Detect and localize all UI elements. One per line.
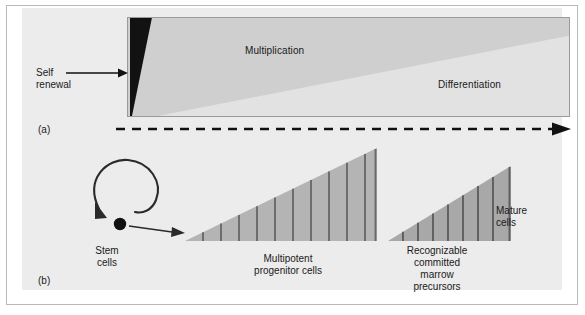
stem-to-progenitor-arrow [129,226,172,232]
label-multipotent-progenitor-cells: Multipotent progenitor cells [228,253,348,277]
self-renewal-loop-icon [94,160,158,213]
multipotent-line2: progenitor cells [228,265,348,277]
label-recognizable-committed-marrow-precursors: Recognizable committed marrow precursors [382,245,492,293]
mature-line2: cells [496,217,556,229]
panel-b-tag: (b) [38,275,50,286]
time-arrow-icon [116,120,571,138]
label-mature-cells: Mature cells [496,205,556,229]
label-stem-cells: Stem cells [78,245,136,269]
precursors-line1: Recognizable [382,245,492,257]
mature-line1: Mature [496,205,556,217]
label-multiplication: Multiplication [245,45,304,56]
stem-to-progenitor-arrowhead-icon [171,227,185,237]
self-renewal-line2: renewal [36,79,71,91]
panel-a-graphic [128,18,569,116]
precursors-line4: precursors [382,281,492,293]
self-renewal-arrow-icon [66,66,128,80]
label-differentiation: Differentiation [438,79,501,90]
loop-arrowhead-icon [95,202,107,219]
stem-cells-line2: cells [78,257,136,269]
multipotent-line1: Multipotent [228,253,348,265]
figure-plate: Multiplication Differentiation Self rene… [0,0,585,315]
stem-cells-line1: Stem [78,245,136,257]
precursors-line2: committed [382,257,492,269]
stem-cell-dot [114,218,126,230]
panel-a-tag: (a) [38,124,50,135]
ramp-multipotent [185,148,377,241]
panel-a-box [127,17,570,117]
precursors-line3: marrow [382,269,492,281]
